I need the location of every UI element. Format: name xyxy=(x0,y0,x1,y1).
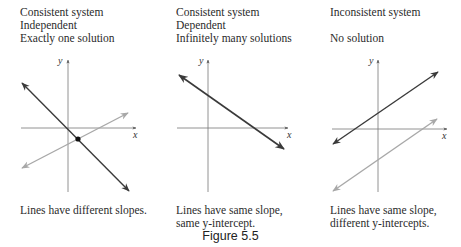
panel-dependent: Consistent system Dependent Infinitely m… xyxy=(176,0,326,230)
y-axis-label: y xyxy=(57,55,63,66)
heading-line-2 xyxy=(330,19,420,32)
caption-line-1: Lines have same slope, xyxy=(176,204,283,217)
panel-inconsistent: Inconsistent system No solution xyxy=(330,0,461,230)
graph-independent: y x xyxy=(21,55,138,192)
panel-heading: Consistent system Dependent Infinitely m… xyxy=(176,6,292,45)
panel-caption-inconsistent: Lines have same slope, different y-inter… xyxy=(330,204,437,230)
line-dark-negative xyxy=(22,83,129,191)
heading-line-1: Consistent system xyxy=(176,6,292,19)
intersection-point xyxy=(75,136,80,141)
figure-5-5: Consistent system Independent Exactly on… xyxy=(0,0,461,247)
heading-line-1: Inconsistent system xyxy=(330,6,420,19)
caption-line-1: Lines have same slope, xyxy=(330,204,437,217)
panel-caption-independent: Lines have different slopes. xyxy=(20,204,147,217)
x-axis-label: x xyxy=(132,129,138,140)
heading-line-3: No solution xyxy=(330,32,420,45)
heading-line-3: Infinitely many solutions xyxy=(176,32,292,45)
caption-line-1: Lines have different slopes. xyxy=(20,204,147,217)
panel-caption-dependent: Lines have same slope, same y-intercept. xyxy=(176,204,283,230)
heading-line-2: Dependent xyxy=(176,19,292,32)
figure-caption: Figure 5.5 xyxy=(0,229,461,243)
line-light-positive xyxy=(22,113,128,168)
panel-heading: Inconsistent system No solution xyxy=(330,6,420,45)
